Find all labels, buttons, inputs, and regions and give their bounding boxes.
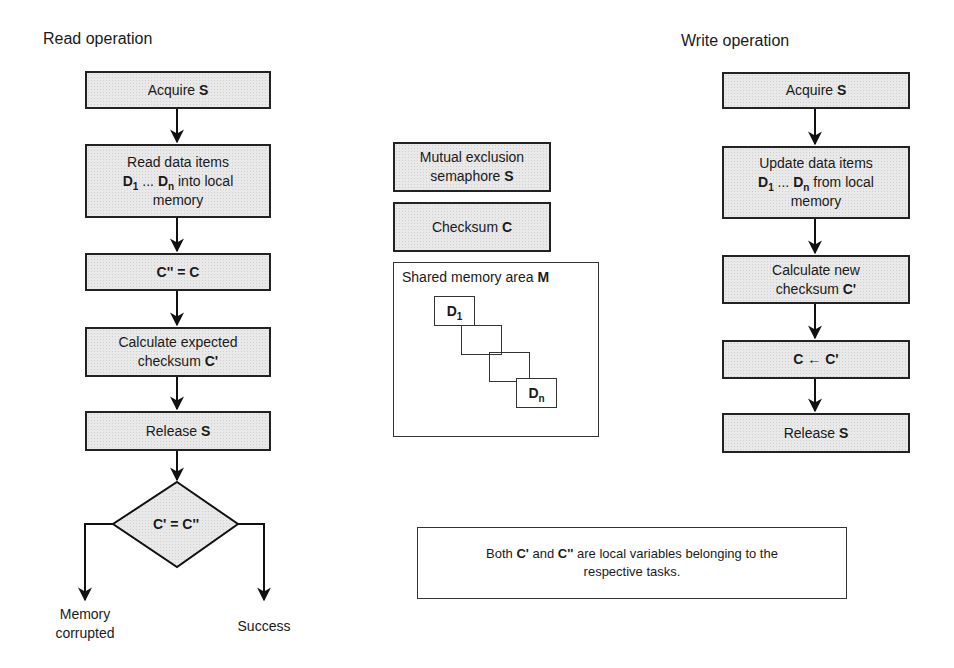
step-text: Acquire — [786, 82, 833, 98]
read-data-items-step: Read data items D1 ... Dn into local mem… — [85, 144, 271, 218]
step-text: Update data items — [759, 155, 873, 171]
label-text: Shared memory area — [402, 269, 534, 285]
step-text: memory — [791, 193, 842, 209]
step-var: S — [839, 425, 848, 441]
note-text: Both — [486, 546, 516, 561]
write-calculate-new-step: Calculate new checksum C' — [722, 255, 910, 304]
read-acquire-step: Acquire S — [85, 71, 271, 109]
step-var: C'' = C — [157, 263, 200, 282]
box-text: Checksum — [432, 219, 498, 235]
step-text: checksum — [776, 281, 839, 297]
step-text: Release — [784, 425, 835, 441]
shared-memory-label: Shared memory area M — [402, 269, 549, 285]
note-var: C' — [516, 546, 528, 561]
data-item-first: D1 — [434, 296, 475, 326]
mutex-semaphore-box: Mutual exclusion semaphore S — [393, 142, 551, 192]
read-operation-title: Read operation — [43, 30, 152, 48]
box-text: semaphore — [430, 168, 500, 184]
step-text: from local — [809, 174, 874, 190]
box-text: Mutual exclusion — [420, 149, 524, 165]
write-assign-checksum-step: C ← C' — [722, 340, 910, 379]
step-text: into local — [174, 173, 233, 189]
data-item-middle — [461, 325, 502, 355]
item-sub: n — [539, 393, 545, 404]
write-release-step: Release S — [722, 413, 910, 453]
item-sub: 1 — [457, 311, 463, 322]
item-var: D — [528, 385, 538, 401]
ellipsis: ... — [774, 174, 793, 190]
write-update-items-step: Update data items D1 ... Dn from local m… — [722, 146, 910, 219]
step-var: C' — [843, 281, 856, 297]
label-var: M — [537, 269, 549, 285]
d1-var: D — [123, 173, 133, 189]
box-var: S — [504, 168, 513, 184]
step-text: Release — [146, 423, 197, 439]
step-var: C' — [205, 353, 218, 369]
dn-var: D — [793, 174, 803, 190]
outcome-text: corrupted — [55, 625, 114, 641]
read-release-step: Release S — [85, 411, 271, 451]
step-text: Acquire — [148, 82, 195, 98]
step-var: S — [199, 82, 208, 98]
write-acquire-step: Acquire S — [722, 72, 910, 109]
step-var: S — [837, 82, 846, 98]
step-text: memory — [153, 192, 204, 208]
shared-memory-area: Shared memory area M D1 Dn — [393, 262, 599, 437]
step-text: Calculate new — [772, 262, 860, 278]
note-text: respective tasks. — [584, 564, 681, 579]
note-text: are local variables belonging to the — [573, 546, 778, 561]
step-text: checksum — [138, 353, 201, 369]
decision-label: C' = C'' — [113, 515, 239, 534]
d1-var: D — [758, 174, 768, 190]
note-text: and — [529, 546, 558, 561]
note-var: C'' — [558, 546, 574, 561]
outcome-success: Success — [224, 617, 304, 636]
box-var: C — [502, 219, 512, 235]
step-text: Read data items — [127, 154, 229, 170]
checksum-box: Checksum C — [393, 202, 551, 252]
step-var: S — [201, 423, 210, 439]
outcome-text: Memory — [60, 606, 111, 622]
note-box: Both C' and C'' are local variables belo… — [417, 527, 847, 599]
item-var: D — [447, 303, 457, 319]
data-item-last: Dn — [516, 378, 557, 408]
step-var: C ← C' — [793, 350, 838, 369]
dn-var: D — [158, 173, 168, 189]
read-copy-checksum-step: C'' = C — [85, 253, 271, 291]
read-calculate-expected-step: Calculate expected checksum C' — [85, 327, 271, 377]
step-text: Calculate expected — [118, 334, 237, 350]
outcome-memory-corrupted: Memory corrupted — [40, 605, 130, 643]
ellipsis: ... — [138, 173, 157, 189]
write-operation-title: Write operation — [681, 32, 789, 50]
